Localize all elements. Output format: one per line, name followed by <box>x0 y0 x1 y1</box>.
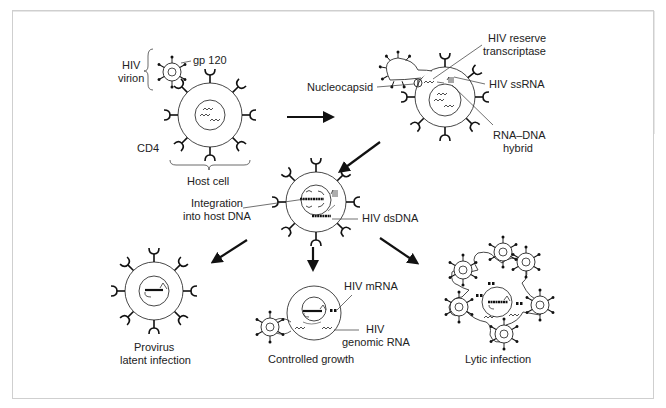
dsdna-label: HIV dsDNA <box>362 212 419 224</box>
host-cell-brace <box>170 160 250 170</box>
arrow-to-latent <box>219 240 247 258</box>
entry-cell <box>379 51 489 142</box>
genomic-label-line2: genomic RNA <box>342 336 411 348</box>
rt-label-line2: transcriptase <box>483 45 546 57</box>
hybrid-label-line2: hybrid <box>503 142 533 154</box>
virion-brace <box>144 49 153 90</box>
latent-label-line1: Provirus <box>134 341 175 353</box>
integration-label-line2: into host DNA <box>183 210 252 222</box>
genomic-label-line1: HIV <box>366 323 385 335</box>
gp120-leader <box>181 61 191 63</box>
hybrid-label-line1: RNA–DNA <box>493 129 546 141</box>
mrna-label: HIV mRNA <box>344 280 398 292</box>
host-cell-label: Host cell <box>187 175 229 187</box>
hiv-lifecycle-content: gp 120 HIV virion CD4 Host cell <box>0 0 666 408</box>
virion-label-line2: virion <box>118 72 144 84</box>
arrow-to-lytic <box>380 238 411 259</box>
latent-cell <box>111 248 197 334</box>
gp120-label: gp 120 <box>193 54 227 66</box>
arrow-entry-to-integration <box>346 142 380 167</box>
latent-label-line2: latent infection <box>120 354 191 366</box>
host-cell <box>164 69 256 161</box>
controlled-cell <box>255 286 341 344</box>
virion-label-line1: HIV <box>122 59 141 71</box>
lytic-cell <box>444 236 555 351</box>
controlled-label: Controlled growth <box>268 353 354 365</box>
cd4-label: CD4 <box>137 142 159 154</box>
nucleocapsid-label: Nucleocapsid <box>307 81 373 93</box>
ssrna-label: HIV ssRNA <box>489 78 545 90</box>
rt-label-line1: HIV reserve <box>488 32 546 44</box>
integration-label-line1: Integration <box>191 197 243 209</box>
nucleocapsid-leader <box>377 84 414 87</box>
lytic-label: Lytic infection <box>465 353 531 365</box>
